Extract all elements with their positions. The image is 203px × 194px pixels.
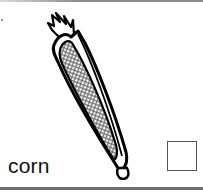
top-divider xyxy=(0,0,203,2)
word-label: corn xyxy=(8,154,50,178)
answer-checkbox[interactable] xyxy=(167,141,197,171)
corn-cob-icon xyxy=(38,10,138,180)
stray-dot xyxy=(1,19,3,21)
bottom-divider xyxy=(0,187,203,190)
